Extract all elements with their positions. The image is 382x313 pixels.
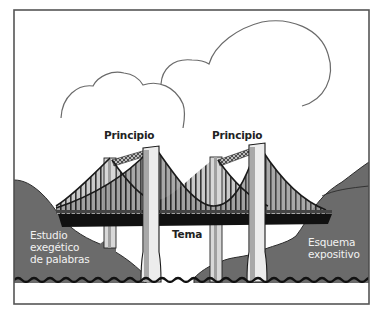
label-estudio-line1: Estudio: [30, 229, 110, 241]
water: [14, 283, 369, 304]
label-principio-left: Principio: [104, 129, 154, 141]
label-estudio-line3: de palabras: [30, 253, 110, 265]
tower-front-right: [247, 143, 267, 282]
tower-front-left: [141, 146, 161, 282]
label-principio-right: Principio: [212, 129, 262, 141]
label-esquema-line2: expositivo: [308, 248, 378, 260]
label-estudio-exegetico: Estudio exegético de palabras: [30, 229, 110, 265]
label-esquema-line1: Esquema: [308, 236, 378, 248]
label-tema: Tema: [172, 228, 202, 240]
label-estudio-line2: exegético: [30, 241, 110, 253]
bridge-diagram: [0, 0, 382, 313]
deck-railing: [56, 210, 332, 213]
label-esquema-expositivo: Esquema expositivo: [308, 236, 378, 260]
